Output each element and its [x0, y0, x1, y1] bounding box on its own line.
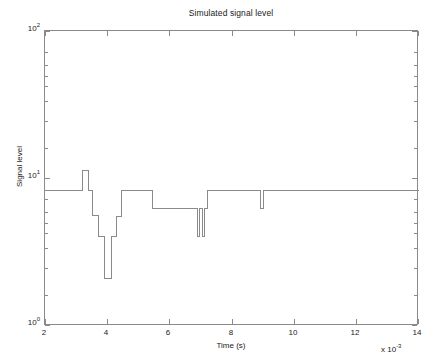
y-tick-minor-right: [414, 268, 417, 269]
x-axis-multiplier: x 10-3: [381, 345, 401, 354]
y-tick-major-10-right: [412, 178, 417, 179]
y-tick-minor-left: [45, 86, 48, 87]
figure-canvas: Simulated signal level: [0, 0, 435, 361]
x-tick-label-6: 6: [166, 328, 170, 337]
y-tick-minor-left: [45, 199, 48, 200]
y-tick-minor-left: [45, 248, 48, 249]
y-tick-minor-left: [45, 223, 48, 224]
y-tick-minor-right: [414, 199, 417, 200]
x-tick-12-bottom: [356, 319, 357, 324]
y-tick-minor-left: [45, 233, 48, 234]
x-tick-6-bottom: [169, 319, 170, 324]
x-tick-8-bottom: [232, 319, 233, 324]
y-axis-title: Signal level: [15, 132, 24, 202]
y-tick-minor-right: [414, 86, 417, 87]
y-tick-label-10-exp: 1: [37, 169, 40, 175]
y-tick-minor-left: [45, 212, 48, 213]
x-tick-6-top: [169, 31, 170, 36]
x-tick-label-2: 2: [42, 328, 46, 337]
y-tick-major-100-right: [412, 31, 417, 32]
y-tick-minor-right: [414, 121, 417, 122]
x-tick-4-top: [107, 31, 108, 36]
x-tick-10-top: [294, 31, 295, 36]
y-tick-minor-right: [414, 101, 417, 102]
y-tick-minor-right: [414, 52, 417, 53]
x-tick-label-4: 4: [104, 328, 108, 337]
x-tick-4-bottom: [107, 319, 108, 324]
y-tick-minor-left: [45, 148, 48, 149]
y-tick-label-1: 100: [18, 318, 40, 327]
x-tick-label-12: 12: [351, 328, 360, 337]
y-tick-major-1-left: [45, 325, 50, 326]
y-tick-minor-right: [414, 76, 417, 77]
y-tick-label-10-base: 10: [28, 171, 37, 180]
y-tick-minor-left: [45, 76, 48, 77]
y-tick-minor-right: [414, 233, 417, 234]
x-tick-8-top: [232, 31, 233, 36]
y-tick-minor-right: [414, 295, 417, 296]
data-trace-svg: [45, 31, 419, 326]
signal-level-trace: [45, 170, 419, 278]
x-tick-2-bottom: [45, 319, 46, 324]
x-tick-12-top: [356, 31, 357, 36]
x-tick-10-bottom: [294, 319, 295, 324]
y-tick-major-1-right: [412, 325, 417, 326]
x-tick-14-top: [418, 31, 419, 36]
y-tick-minor-left: [45, 101, 48, 102]
y-tick-minor-right: [414, 65, 417, 66]
x-tick-label-10: 10: [289, 328, 298, 337]
y-tick-minor-left: [45, 268, 48, 269]
y-tick-minor-left: [45, 52, 48, 53]
y-tick-major-10-left: [45, 178, 50, 179]
x-tick-2-top: [45, 31, 46, 36]
y-tick-label-1-base: 10: [28, 318, 37, 327]
y-tick-minor-right: [414, 223, 417, 224]
y-tick-label-100: 102: [18, 24, 40, 33]
x-axis-title: Time (s): [44, 341, 418, 350]
chart-title: Simulated signal level: [44, 8, 418, 18]
plot-axes-frame: [44, 30, 418, 325]
y-tick-minor-left: [45, 65, 48, 66]
x-tick-label-14: 14: [413, 328, 422, 337]
y-tick-label-1-exp: 0: [37, 316, 40, 322]
y-tick-label-100-exp: 2: [37, 22, 40, 28]
y-tick-minor-right: [414, 148, 417, 149]
x-axis-multiplier-prefix: x 10: [381, 345, 396, 354]
x-tick-14-bottom: [418, 319, 419, 324]
x-tick-label-8: 8: [229, 328, 233, 337]
x-axis-multiplier-exponent: -3: [396, 343, 401, 349]
y-tick-minor-left: [45, 121, 48, 122]
y-tick-label-100-base: 10: [28, 24, 37, 33]
y-tick-minor-right: [414, 248, 417, 249]
y-tick-minor-right: [414, 212, 417, 213]
y-tick-minor-left: [45, 295, 48, 296]
